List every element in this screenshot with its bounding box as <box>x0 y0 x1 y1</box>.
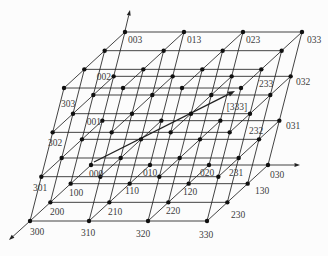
lattice-node <box>257 137 261 141</box>
lattice-node <box>229 74 233 78</box>
lattice-node <box>109 130 113 134</box>
node-label: 302 <box>48 138 63 148</box>
lattice-node <box>277 118 281 122</box>
lattice-node <box>166 200 170 204</box>
node-label: 301 <box>33 183 48 193</box>
node-label: 000 <box>89 169 104 179</box>
lattice-node <box>118 156 122 160</box>
lattice-svg: 0030130230330320310300020010000100202312… <box>0 0 328 256</box>
lattice-edge-z <box>189 51 223 184</box>
route-arrow-000-to-333-head <box>228 91 235 96</box>
figure-canvas: 0030130230330320310300020010000100202312… <box>0 0 328 256</box>
lattice-edge-y <box>112 76 173 132</box>
lattice-node <box>148 163 152 167</box>
lattice-node <box>62 86 66 90</box>
node-label: 023 <box>246 35 261 45</box>
lattice-node <box>209 93 213 97</box>
node-label: 231 <box>229 168 244 178</box>
lattice-node <box>189 111 193 115</box>
lattice-node <box>159 118 163 122</box>
lattice-node <box>288 74 292 78</box>
node-label: 330 <box>199 230 214 240</box>
lattice-node <box>146 219 150 223</box>
node-label: 230 <box>231 210 246 220</box>
lattice-node <box>279 48 283 52</box>
lattice-node <box>300 30 304 34</box>
lattice-node <box>200 67 204 71</box>
lattice-node <box>157 174 161 178</box>
lattice-node <box>177 156 181 160</box>
node-label: 303 <box>61 99 76 109</box>
route-arrow-000-to-333-line <box>94 94 229 162</box>
y-axis-arrow-line <box>13 221 30 236</box>
lattice-edge-y <box>64 32 125 88</box>
lattice-node <box>180 86 184 90</box>
node-label: 001 <box>87 117 102 127</box>
node-label: 300 <box>30 227 45 237</box>
lattice-node <box>28 219 32 223</box>
lattice-node <box>150 93 154 97</box>
lattice-edge-y <box>171 76 232 132</box>
lattice-node <box>161 48 165 52</box>
lattice-node <box>50 130 54 134</box>
lattice-node <box>218 118 222 122</box>
node-label: 310 <box>81 228 96 238</box>
lattice-node <box>71 111 75 115</box>
node-label: 032 <box>296 77 311 87</box>
lattice-node <box>80 137 84 141</box>
lattice-node <box>130 111 134 115</box>
z-axis-arrow-head <box>127 10 131 16</box>
node-label: 130 <box>255 186 270 196</box>
node-label: [333] <box>227 102 248 112</box>
node-label: 233 <box>259 79 274 89</box>
lattice-node <box>207 163 211 167</box>
node-label: 200 <box>50 207 65 217</box>
lattice-node <box>59 156 63 160</box>
lattice-node <box>239 86 243 90</box>
lattice-node <box>168 130 172 134</box>
lattice-edge-z <box>50 69 84 202</box>
lattice-node <box>123 30 127 34</box>
lattice-node <box>216 174 220 178</box>
lattice-node <box>82 67 86 71</box>
node-label: 010 <box>143 168 158 178</box>
lattice-node <box>48 200 52 204</box>
lattice-node <box>266 163 270 167</box>
lattice-node <box>227 130 231 134</box>
lattice-edge-z <box>168 69 202 202</box>
lattice-node <box>102 48 106 52</box>
lattice-node <box>68 181 72 185</box>
x-axis-arrow-head <box>295 163 301 167</box>
node-label: 120 <box>183 187 198 197</box>
lattice-node <box>198 137 202 141</box>
node-label: 003 <box>128 35 143 45</box>
node-label: 232 <box>249 126 264 136</box>
node-label: 110 <box>125 186 139 196</box>
lattice-edge-z <box>30 88 64 221</box>
node-label: 320 <box>136 229 151 239</box>
node-label: 100 <box>69 188 84 198</box>
lattice-node <box>205 219 209 223</box>
lattice-node <box>107 200 111 204</box>
node-label: 220 <box>166 206 181 216</box>
lattice-edge-z <box>130 51 164 184</box>
z-axis-arrow-line <box>125 15 129 31</box>
lattice-node <box>139 137 143 141</box>
lattice-node <box>91 93 95 97</box>
node-label: 210 <box>108 207 123 217</box>
lattice-node <box>39 174 43 178</box>
lattice-node <box>121 86 125 90</box>
lattice-node <box>89 163 93 167</box>
lattice-node <box>225 200 229 204</box>
lattice-node <box>259 67 263 71</box>
node-label: 020 <box>200 168 215 178</box>
node-label: 002 <box>97 72 112 82</box>
node-label: 033 <box>307 35 322 45</box>
lattice-node <box>111 74 115 78</box>
node-label: 031 <box>286 121 301 131</box>
lattice-edge-z <box>109 69 143 202</box>
lattice-node <box>241 30 245 34</box>
lattice-node <box>220 48 224 52</box>
lattice-edge-z <box>268 32 302 165</box>
lattice-edge-z <box>248 51 282 184</box>
